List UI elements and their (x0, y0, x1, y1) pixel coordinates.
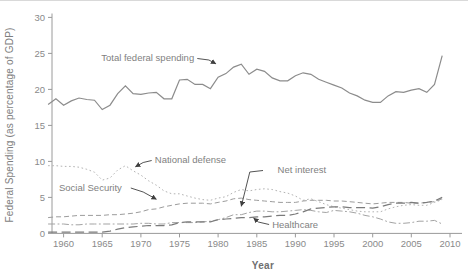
x-tick-label: 1965 (92, 238, 113, 249)
x-tick-label: 1995 (323, 238, 344, 249)
x-tick-label: 1960 (53, 238, 74, 249)
chart-figure: 1960196519701975198019851990199520002005… (0, 0, 468, 280)
x-tick-label: 2005 (401, 238, 422, 249)
y-tick-label: 10 (34, 156, 45, 167)
x-tick-label: 1975 (169, 238, 190, 249)
annotation-arrow-national-defense (136, 161, 152, 167)
x-tick-label: 1985 (246, 238, 267, 249)
federal-spending-line-chart: 1960196519701975198019851990199520002005… (0, 0, 468, 280)
x-tick-label: 2010 (439, 238, 460, 249)
y-tick-label: 25 (34, 48, 45, 59)
series-line-total-federal-spending (48, 56, 442, 110)
x-axis-title: Year (252, 260, 274, 271)
annotation-label-social-security: Social Security (59, 182, 122, 193)
series-line-social-security (48, 198, 442, 218)
series-layer (48, 56, 442, 232)
annotation-label-national-defense: National defense (155, 154, 226, 165)
annotation-label-total-federal-spending: Total federal spending (101, 52, 194, 63)
x-tick-label: 2000 (362, 238, 383, 249)
y-tick-label: 20 (34, 84, 45, 95)
annotation-arrow-total-federal-spending (197, 59, 216, 64)
y-tick-label: 30 (34, 12, 45, 23)
y-tick-label: 5 (40, 192, 45, 203)
x-tick-label: 1980 (208, 238, 229, 249)
annotation-arrow-healthcare (254, 218, 269, 224)
axes-layer: 1960196519701975198019851990199520002005… (34, 12, 462, 249)
annotation-label-net-interest: Net interest (278, 164, 327, 175)
x-tick-label: 1970 (130, 238, 151, 249)
y-axis-title: Federal Spending (as percentage of GDP) (4, 27, 15, 222)
annotation-arrow-social-security (131, 188, 157, 199)
annotation-label-healthcare: Healthcare (272, 219, 318, 230)
x-tick-label: 1990 (285, 238, 306, 249)
y-tick-label: 15 (34, 120, 45, 131)
y-tick-label: 0 (40, 228, 45, 239)
series-line-net-interest (48, 210, 442, 225)
annotation-arrow-net-interest (241, 171, 263, 207)
